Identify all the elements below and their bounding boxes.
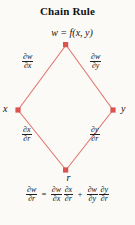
chain-rule-tree-diagram: w = f(x, y) x y r ∂w ∂x ∂w ∂y ∂x ∂r ∂y: [0, 24, 135, 184]
fraction-denominator: ∂y: [90, 62, 101, 70]
edge-label-dw-dx: ∂w ∂x: [22, 53, 33, 71]
tree-edges-svg: [0, 24, 135, 184]
fraction-denominator: ∂x: [22, 62, 33, 70]
fraction-denominator: ∂r: [26, 195, 37, 203]
fraction-denominator: ∂y: [87, 195, 98, 203]
node-marker-w: [63, 42, 68, 47]
fraction-dy-dr: ∂y ∂r: [99, 186, 109, 204]
chain-rule-figure: Chain Rule w = f(x, y) x y r ∂w: [0, 0, 135, 225]
equals-sign: =: [39, 190, 49, 199]
plus-sign: +: [75, 190, 85, 199]
fraction-dw-dy: ∂w ∂y: [87, 186, 98, 204]
fraction-denominator: ∂x: [51, 195, 62, 203]
fraction-dw-dy: ∂w ∂y: [90, 53, 101, 71]
edge-label-dw-dy: ∂w ∂y: [90, 53, 101, 71]
equation-term-1: ∂w ∂x ∂x ∂r: [51, 186, 73, 204]
node-label-x: x: [3, 104, 7, 114]
node-marker-x: [15, 107, 20, 112]
equation-term-2: ∂w ∂y ∂y ∂r: [87, 186, 109, 204]
fraction-dx-dr: ∂x ∂r: [22, 126, 32, 144]
edge-label-dy-dr: ∂y ∂r: [90, 126, 100, 144]
figure-title: Chain Rule: [0, 5, 135, 17]
fraction-dx-dr: ∂x ∂r: [64, 186, 74, 204]
edge-label-dx-dr: ∂x ∂r: [22, 126, 32, 144]
node-label-w: w = f(x, y): [0, 28, 135, 38]
fraction-denominator: ∂r: [64, 195, 74, 203]
node-label-r: r: [0, 173, 135, 183]
fraction-dy-dr: ∂y ∂r: [90, 126, 100, 144]
fraction-denominator: ∂r: [22, 135, 32, 143]
equation-lhs-fraction: ∂w ∂r: [26, 186, 37, 204]
chain-rule-equation: ∂w ∂r = ∂w ∂x ∂x ∂r + ∂w ∂y ∂y ∂r: [0, 186, 135, 204]
fraction-dw-dx: ∂w ∂x: [51, 186, 62, 204]
fraction-dw-dx: ∂w ∂x: [22, 53, 33, 71]
node-marker-y: [110, 107, 115, 112]
node-label-y: y: [121, 104, 125, 114]
fraction-denominator: ∂r: [99, 195, 109, 203]
fraction-denominator: ∂r: [90, 135, 100, 143]
